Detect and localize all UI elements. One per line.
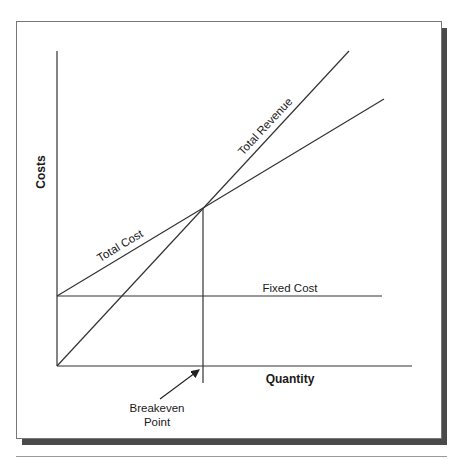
breakeven-chart: Costs Quantity Total Revenue Total Cost … (0, 0, 461, 459)
breakeven-label-line2: Point (144, 416, 171, 428)
x-axis-label: Quantity (266, 372, 315, 386)
breakeven-arrow (160, 370, 199, 399)
y-axis-label: Costs (34, 155, 48, 189)
breakeven-label-line1: Breakeven (130, 402, 185, 414)
total-cost-line (57, 99, 384, 296)
total-revenue-label: Total Revenue (236, 95, 295, 157)
fixed-cost-label: Fixed Cost (263, 282, 319, 294)
